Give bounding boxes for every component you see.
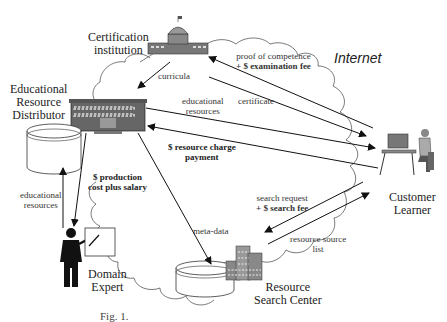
search-center-icon [176,246,262,297]
certificate-label: certificate [238,96,274,106]
database-cylinder-icon [27,124,81,174]
search-center-label: Resource Search Center [254,281,322,307]
production-label: $ production cost plus salary [88,172,147,192]
edu-resources-label: educational resources [182,96,223,116]
capitol-building-icon [148,16,208,54]
internet-label: Internet [334,50,381,66]
certification-label: Certification institution [88,31,149,57]
meta-data-label: meta-data [193,226,228,236]
proof-label: proof of competence + $ examination fee [236,51,311,71]
figure-caption: Fig. 1. [100,310,128,322]
search-request-label: search request + $ search fee [256,193,308,213]
source-list-label: resource source list [290,234,346,254]
charge-label: $ resource charge payment [168,142,236,162]
distributor-building-icon [69,99,147,134]
curricula-label: curricula [158,71,190,81]
customer-computer-icon [380,129,434,175]
customer-label: Customer Learner [389,191,436,217]
arrow-certificate [209,77,366,136]
expert-label: Domain Expert [88,268,127,294]
distributor-label: Educational Resource Distributor [10,83,67,122]
left-edu-label: educational resources [20,190,61,210]
